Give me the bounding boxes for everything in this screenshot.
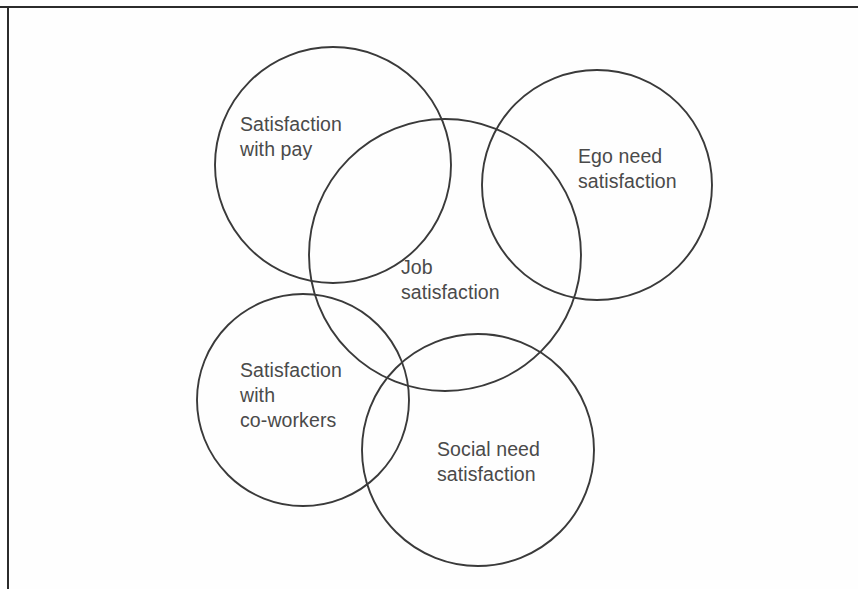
label-social-need-satisfaction: Social need satisfaction [437, 437, 540, 487]
label-job-satisfaction: Job satisfaction [401, 255, 500, 305]
label-satisfaction-with-pay: Satisfaction with pay [240, 112, 342, 162]
label-satisfaction-with-co-workers: Satisfaction with co-workers [240, 358, 342, 433]
figure-page: Satisfaction with pay Ego need satisfact… [0, 0, 858, 589]
circle-satisfaction-with-pay [215, 47, 451, 283]
label-ego-need-satisfaction: Ego need satisfaction [578, 144, 677, 194]
